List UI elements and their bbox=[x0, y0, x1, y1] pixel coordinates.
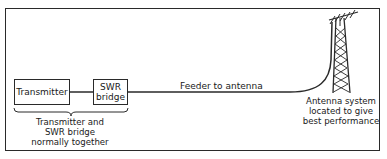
swr-bridge-label-line2: bridge bbox=[96, 92, 125, 102]
antenna-caption-line2: located to give bbox=[300, 106, 382, 116]
group-caption-line1: Transmitter and bbox=[30, 117, 110, 127]
group-caption: Transmitter and SWR bridge normally toge… bbox=[30, 117, 110, 147]
antenna-tower-icon bbox=[329, 10, 358, 93]
transmitter-label: Transmitter bbox=[16, 87, 67, 97]
transmitter-box: Transmitter bbox=[14, 79, 70, 105]
antenna-caption-line1: Antenna system bbox=[300, 96, 382, 106]
group-caption-line3: normally together bbox=[30, 137, 110, 147]
swr-bridge-label-line1: SWR bbox=[100, 82, 121, 92]
grouping-brace bbox=[14, 108, 128, 116]
feeder-label: Feeder to antenna bbox=[180, 81, 263, 91]
antenna-caption-line3: best performance bbox=[300, 116, 382, 126]
swr-bridge-box: SWR bridge bbox=[93, 79, 128, 105]
antenna-caption: Antenna system located to give best perf… bbox=[300, 96, 382, 126]
group-caption-line2: SWR bridge bbox=[30, 127, 110, 137]
